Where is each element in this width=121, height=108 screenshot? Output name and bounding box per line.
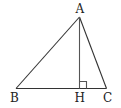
triangle-diagram: A B H C (0, 0, 121, 108)
segment-ab (16, 17, 80, 89)
right-angle-marker (80, 82, 87, 89)
label-a: A (75, 2, 85, 16)
label-b: B (10, 91, 19, 105)
label-c: C (103, 91, 112, 105)
label-h: H (75, 91, 85, 105)
segment-ac (80, 17, 107, 89)
